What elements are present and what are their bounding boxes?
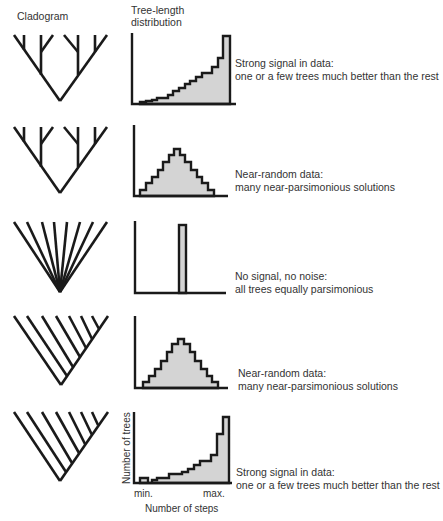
x-tick-min: min. (134, 488, 153, 499)
description-row2: Near-random data: many near-parsimonious… (235, 168, 395, 194)
histogram-strong-signal-2 (134, 412, 232, 483)
cladogram-balanced-1 (14, 35, 107, 101)
description-row3-line1: No signal, no noise: (235, 270, 373, 283)
x-tick-max: max. (203, 488, 225, 499)
description-row3-line2: all trees equally parsimonious (235, 283, 373, 296)
description-row4: Near-random data: many near-parsimonious… (238, 367, 398, 393)
cladogram-pectinate-2 (14, 412, 108, 481)
description-row4-line2: many near-parsimonious solutions (238, 380, 398, 393)
x-axis-label: Number of steps (145, 503, 218, 514)
description-row4-line1: Near-random data: (238, 367, 398, 380)
description-row1-line2: one or a few trees much better than the … (235, 70, 439, 83)
cladogram-star (14, 222, 107, 293)
description-row1-line1: Strong signal in data: (235, 57, 439, 70)
cladogram-balanced-2 (14, 127, 107, 193)
description-row5-line1: Strong signal in data: (236, 466, 440, 479)
histogram-no-signal (135, 221, 226, 293)
description-row2-line2: many near-parsimonious solutions (235, 181, 395, 194)
description-row5: Strong signal in data: one or a few tree… (236, 466, 440, 492)
description-row1: Strong signal in data: one or a few tree… (235, 57, 439, 83)
histogram-strong-signal-1 (132, 33, 236, 104)
cladogram-pectinate-1 (14, 316, 108, 385)
histogram-near-random-2 (135, 316, 228, 388)
description-row5-line2: one or a few trees much better than the … (236, 479, 440, 492)
histogram-near-random-1 (134, 125, 228, 196)
description-row3: No signal, no noise: all trees equally p… (235, 270, 373, 296)
y-axis-label: Number of trees (121, 412, 132, 484)
description-row2-line1: Near-random data: (235, 168, 395, 181)
